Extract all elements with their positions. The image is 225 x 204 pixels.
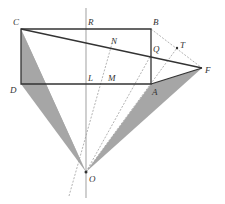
label-M: M	[107, 73, 116, 83]
label-A: A	[151, 87, 158, 97]
label-D: D	[9, 85, 17, 95]
label-C: C	[13, 17, 20, 27]
label-T: T	[180, 40, 186, 50]
label-N: N	[110, 36, 118, 46]
label-O: O	[89, 174, 96, 184]
point-O	[85, 171, 88, 174]
dashed-line-O-N	[69, 40, 113, 196]
geometry-diagram: C R B N Q T F D L M A O	[0, 0, 225, 204]
label-Q: Q	[153, 44, 160, 54]
label-R: R	[87, 17, 94, 27]
shaded-triangle-left-mask	[21, 29, 86, 172]
label-B: B	[153, 17, 159, 27]
point-T	[176, 47, 178, 49]
line-C-F	[21, 29, 202, 68]
dashed-line-O-T	[86, 48, 177, 172]
label-L: L	[87, 73, 93, 83]
label-F: F	[204, 65, 211, 75]
